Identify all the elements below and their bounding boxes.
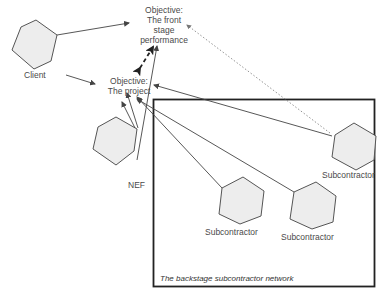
objectives-link-dashed-arrow [140, 47, 153, 68]
frontstage-objective-line3: stage [136, 25, 192, 35]
project-objective-label: Objective: The project [104, 76, 154, 96]
client-to-project-arrow [66, 75, 95, 84]
client-to-frontstage-arrow [57, 23, 129, 35]
sub-right-to-frontstage-dotted-arrow [187, 25, 330, 133]
client-label: Client [24, 70, 46, 80]
project-objective-line2: The project [104, 86, 154, 96]
sub-low-hexagon-icon[interactable] [290, 182, 336, 229]
frontstage-objective-line1: Objective: [136, 5, 192, 15]
sub-low-label: Subcontractor [281, 232, 334, 242]
sub-mid-to-project-arrow [137, 97, 222, 188]
frontstage-objective-line4: performance [136, 35, 192, 45]
sub-mid-hexagon-icon[interactable] [219, 177, 264, 224]
client-hexagon-icon[interactable] [12, 20, 57, 69]
backstage-network-label: The backstage subcontractor network [160, 274, 293, 283]
sub-mid-label: Subcontractor [205, 227, 258, 237]
nef-label: NEF [128, 180, 145, 190]
project-objective-line1: Objective: [104, 76, 154, 86]
nef-hexagon-icon[interactable] [93, 117, 137, 165]
sub-low-to-project-arrow [137, 99, 294, 192]
sub-right-hexagon-icon[interactable] [332, 123, 376, 170]
frontstage-objective-line2: The front [136, 15, 192, 25]
frontstage-objective-label: Objective: The front stage performance [136, 5, 192, 45]
sub-right-to-project-arrow [154, 85, 332, 136]
sub-right-label: Subcontractor [322, 170, 375, 180]
